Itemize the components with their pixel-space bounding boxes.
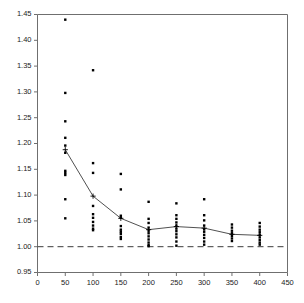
data-point bbox=[120, 231, 122, 233]
data-point bbox=[231, 240, 233, 242]
data-point bbox=[92, 217, 94, 219]
data-point bbox=[64, 144, 66, 146]
data-point bbox=[203, 234, 205, 236]
data-point bbox=[92, 221, 94, 223]
x-tick-label: 200 bbox=[142, 278, 155, 287]
data-point bbox=[175, 236, 177, 238]
data-points-layer bbox=[64, 18, 261, 247]
data-point bbox=[120, 233, 122, 235]
data-point bbox=[147, 218, 149, 220]
data-point bbox=[259, 228, 261, 230]
x-tick-label: 350 bbox=[226, 278, 239, 287]
y-tick-label: 1.45 bbox=[17, 9, 32, 18]
data-point bbox=[64, 198, 66, 200]
data-point bbox=[259, 239, 261, 241]
data-point bbox=[175, 202, 177, 204]
data-point bbox=[120, 228, 122, 230]
x-tick-label: 400 bbox=[253, 278, 266, 287]
data-point bbox=[175, 221, 177, 223]
data-point bbox=[147, 201, 149, 203]
x-tick-label: 250 bbox=[170, 278, 183, 287]
data-point bbox=[64, 120, 66, 122]
median-trend-line bbox=[65, 150, 259, 236]
data-point bbox=[147, 241, 149, 243]
data-point bbox=[259, 243, 261, 245]
x-tick-label: 300 bbox=[198, 278, 211, 287]
y-tick-label: 1.00 bbox=[17, 242, 32, 251]
data-point bbox=[92, 224, 94, 226]
data-point bbox=[231, 230, 233, 232]
data-point bbox=[147, 222, 149, 224]
data-point bbox=[203, 231, 205, 233]
x-tick-labels: 050100150200250300350400450 bbox=[35, 278, 293, 287]
data-point bbox=[92, 213, 94, 215]
data-point bbox=[64, 170, 66, 172]
y-tick-label: 1.15 bbox=[17, 164, 32, 173]
data-point bbox=[203, 240, 205, 242]
data-point bbox=[231, 226, 233, 228]
data-point bbox=[120, 236, 122, 238]
data-point bbox=[259, 241, 261, 243]
y-tick-label: 1.25 bbox=[17, 113, 32, 122]
data-point bbox=[175, 233, 177, 235]
data-point bbox=[203, 198, 205, 200]
x-axis-ticks bbox=[38, 273, 288, 277]
data-point bbox=[120, 188, 122, 190]
data-point bbox=[231, 237, 233, 239]
data-point bbox=[147, 238, 149, 240]
data-point bbox=[203, 214, 205, 216]
data-point bbox=[64, 217, 66, 219]
data-point bbox=[259, 222, 261, 224]
y-tick-label: 1.05 bbox=[17, 216, 32, 225]
data-point bbox=[203, 219, 205, 221]
data-point bbox=[64, 92, 66, 94]
median-marker bbox=[257, 233, 262, 238]
y-tick-label: 1.35 bbox=[17, 61, 32, 70]
data-point bbox=[203, 237, 205, 239]
data-point bbox=[92, 172, 94, 174]
chart-figure: 0.951.001.051.101.151.201.251.301.351.40… bbox=[0, 0, 304, 303]
median-trend-path bbox=[65, 150, 259, 236]
data-point bbox=[147, 245, 149, 247]
data-point bbox=[64, 174, 66, 176]
data-point bbox=[120, 225, 122, 227]
median-marker bbox=[63, 147, 68, 152]
x-tick-label: 0 bbox=[35, 278, 39, 287]
data-point bbox=[175, 240, 177, 242]
data-point bbox=[203, 243, 205, 245]
y-tick-label: 1.40 bbox=[17, 35, 32, 44]
x-tick-label: 100 bbox=[87, 278, 100, 287]
median-marker bbox=[146, 227, 151, 232]
data-point bbox=[175, 218, 177, 220]
data-point bbox=[175, 214, 177, 216]
data-point bbox=[147, 235, 149, 237]
data-point bbox=[175, 230, 177, 232]
y-tick-label: 1.30 bbox=[17, 87, 32, 96]
y-tick-label: 1.10 bbox=[17, 190, 32, 199]
median-marker bbox=[174, 224, 179, 229]
y-tick-label: 1.20 bbox=[17, 138, 32, 147]
x-tick-label: 50 bbox=[61, 278, 69, 287]
data-point bbox=[147, 232, 149, 234]
median-marker bbox=[229, 232, 234, 237]
data-point bbox=[92, 229, 94, 231]
data-point bbox=[92, 162, 94, 164]
data-point bbox=[259, 225, 261, 227]
data-point bbox=[64, 18, 66, 20]
data-point bbox=[175, 244, 177, 246]
data-point bbox=[231, 223, 233, 225]
plot-frame bbox=[38, 15, 288, 273]
data-point bbox=[120, 238, 122, 240]
axis-frame bbox=[38, 15, 288, 273]
x-tick-label: 450 bbox=[281, 278, 294, 287]
x-tick-label: 150 bbox=[115, 278, 128, 287]
data-point bbox=[64, 172, 66, 174]
scatter-plot: 0.951.001.051.101.151.201.251.301.351.40… bbox=[0, 0, 304, 303]
y-axis-ticks bbox=[34, 15, 38, 273]
data-point bbox=[120, 173, 122, 175]
median-marker bbox=[202, 226, 207, 231]
y-tick-labels: 0.951.001.051.101.151.201.251.301.351.40… bbox=[17, 9, 32, 276]
y-tick-label: 0.95 bbox=[17, 267, 32, 276]
data-point bbox=[92, 69, 94, 71]
data-point bbox=[64, 137, 66, 139]
